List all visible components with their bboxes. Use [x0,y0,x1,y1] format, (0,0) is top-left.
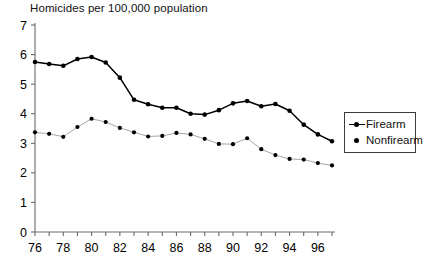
y-tick-label: 6 [20,48,27,62]
data-point-firearm [160,106,165,111]
legend-label-nonfirearm: Nonfirearm [365,134,423,147]
data-point-firearm [259,104,264,109]
x-tick-label: 78 [56,241,70,255]
data-point-firearm [231,101,236,106]
data-point-firearm [75,57,80,62]
data-point-firearm [89,55,94,60]
dot-icon [349,134,365,146]
legend-label-firearm: Firearm [365,118,406,131]
chart-legend: Firearm Nonfirearm [344,112,416,153]
data-point-nonfirearm [273,153,277,157]
x-tick-label: 82 [113,241,127,255]
x-tick-label: 96 [311,241,325,255]
data-point-firearm [202,112,207,117]
legend-item-nonfirearm: Nonfirearm [349,132,411,148]
data-point-firearm [287,108,292,113]
data-point-firearm [103,60,108,65]
data-point-firearm [330,139,335,144]
y-tick-label: 7 [20,19,27,33]
data-point-nonfirearm [302,157,306,161]
data-point-nonfirearm [89,117,93,121]
y-axis: 01234567 [20,19,35,240]
y-tick-label: 4 [20,107,27,121]
data-point-nonfirearm [118,126,122,130]
data-point-firearm [47,62,52,67]
data-point-nonfirearm [132,130,136,134]
data-point-firearm [245,99,250,104]
data-point-firearm [301,122,306,127]
y-tick-label: 0 [20,226,27,240]
x-tick-label: 86 [169,241,183,255]
data-point-firearm [188,111,193,116]
data-point-nonfirearm [287,157,291,161]
data-point-nonfirearm [330,163,334,167]
data-point-firearm [146,102,151,107]
series-line-firearm [35,57,332,141]
data-point-nonfirearm [47,132,51,136]
data-point-firearm [273,102,278,107]
data-point-nonfirearm [146,134,150,138]
data-point-firearm [174,106,179,111]
x-axis: 7678808284868890929496 [28,232,335,255]
series-line-nonfirearm [35,119,332,166]
data-point-nonfirearm [203,137,207,141]
data-point-nonfirearm [160,134,164,138]
x-tick-label: 90 [226,241,240,255]
y-tick-label: 3 [20,137,27,151]
legend-item-firearm: Firearm [349,116,411,132]
data-point-nonfirearm [75,125,79,129]
y-tick-label: 1 [20,196,27,210]
x-tick-label: 80 [85,241,99,255]
x-tick-label: 88 [198,241,212,255]
line-with-dot-icon [349,118,365,130]
data-point-nonfirearm [259,147,263,151]
data-point-nonfirearm [231,142,235,146]
data-point-nonfirearm [188,132,192,136]
data-point-nonfirearm [33,130,37,134]
y-tick-label: 5 [20,78,27,92]
x-tick-label: 84 [141,241,155,255]
data-point-nonfirearm [104,120,108,124]
y-tick-label: 2 [20,166,27,180]
data-point-nonfirearm [316,161,320,165]
data-point-firearm [316,132,321,137]
x-tick-label: 94 [283,241,297,255]
data-point-firearm [132,98,137,103]
data-point-nonfirearm [217,142,221,146]
data-point-firearm [217,108,222,113]
data-series-group [33,55,335,168]
data-point-firearm [33,60,38,65]
data-point-nonfirearm [174,131,178,135]
data-point-firearm [61,64,66,69]
data-point-nonfirearm [245,136,249,140]
x-tick-label: 76 [28,241,42,255]
x-tick-label: 92 [254,241,268,255]
data-point-firearm [118,75,123,80]
data-point-nonfirearm [61,135,65,139]
